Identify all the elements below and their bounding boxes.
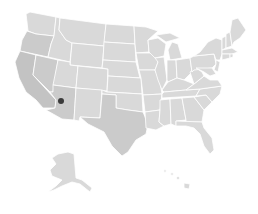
state-mississippi[interactable] — [159, 99, 171, 126]
state-alaska[interactable] — [48, 152, 92, 192]
state-connecticut[interactable] — [222, 54, 230, 60]
markers-layer — [58, 98, 64, 104]
state-ohio[interactable] — [176, 58, 192, 80]
us-map — [0, 0, 258, 214]
state-florida[interactable] — [176, 121, 214, 154]
state-north-dakota[interactable] — [104, 24, 135, 44]
state-hawaii[interactable] — [164, 170, 190, 189]
state-south-dakota[interactable] — [103, 42, 136, 62]
state-kansas[interactable] — [107, 76, 142, 94]
location-marker[interactable] — [58, 98, 64, 104]
state-arkansas[interactable] — [143, 94, 162, 112]
state-new-mexico[interactable] — [74, 88, 102, 121]
state-nebraska[interactable] — [102, 60, 140, 78]
state-maine[interactable] — [230, 18, 246, 46]
state-wyoming[interactable] — [70, 43, 104, 68]
us-map-svg — [0, 0, 258, 214]
states-layer — [15, 12, 246, 192]
state-rhode-island[interactable] — [230, 54, 233, 58]
state-vermont[interactable] — [222, 36, 226, 50]
state-michigan[interactable] — [168, 42, 182, 60]
state-colorado[interactable] — [76, 66, 108, 91]
